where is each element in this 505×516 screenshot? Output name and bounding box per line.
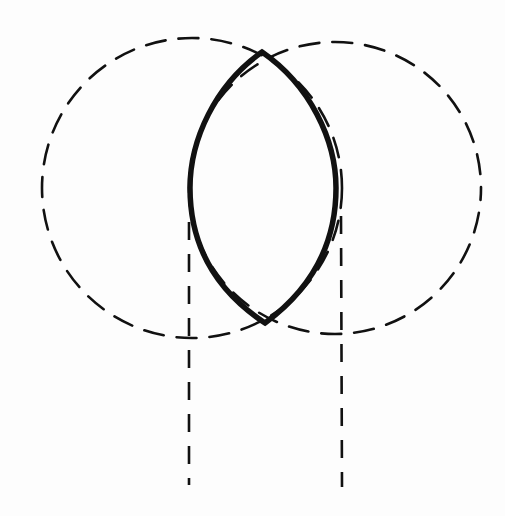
diagram-canvas (0, 0, 505, 516)
right-vertical-dashed-line (341, 216, 342, 487)
lens-shape (190, 52, 336, 323)
lens-construction-diagram (0, 0, 505, 516)
